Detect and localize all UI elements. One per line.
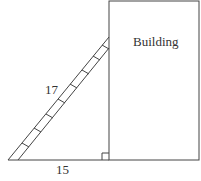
base-distance-label: 15 — [56, 162, 69, 177]
ladder-outer-rail — [8, 37, 109, 160]
ladder-rung — [82, 70, 89, 74]
building-rect — [109, 1, 199, 160]
building-label: Building — [133, 34, 179, 49]
ladder-inner-rail — [18, 48, 109, 160]
ladder-diagram: Building 17 15 — [0, 0, 201, 181]
ladder-rung — [22, 143, 29, 147]
ladder-length-label: 17 — [45, 82, 59, 97]
ladder-rungs — [22, 45, 109, 147]
ladder-rung — [34, 128, 41, 132]
ladder-rung — [70, 84, 77, 88]
right-angle-marker — [102, 153, 109, 160]
ladder-rung — [102, 45, 109, 49]
ladder-rung — [58, 99, 65, 103]
ladder-rung — [93, 56, 100, 60]
ladder — [8, 37, 109, 160]
ladder-rung — [46, 114, 53, 118]
